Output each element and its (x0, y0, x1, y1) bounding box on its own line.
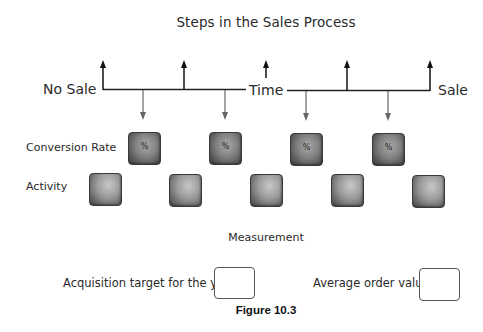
percent-icon: % (129, 142, 160, 151)
conversion-rate-box: % (372, 133, 405, 166)
activity-box (412, 175, 445, 208)
conversion-rate-box: % (209, 132, 242, 165)
no-sale-label: No Sale (43, 81, 96, 97)
conversion-rate-box: % (290, 133, 323, 166)
average-order-value-field (419, 268, 460, 301)
activity-box (89, 173, 122, 206)
percent-icon: % (210, 142, 241, 151)
percent-icon: % (373, 143, 404, 152)
activity-box (250, 174, 283, 207)
acquisition-target-label: Acquisition target for the year (63, 276, 236, 290)
sale-label: Sale (438, 82, 468, 98)
conversion-rate-label: Conversion Rate (26, 141, 116, 154)
time-label: Time (249, 82, 283, 98)
activity-box (169, 174, 202, 207)
average-order-value-label: Average order value (313, 276, 430, 290)
measurement-heading: Measurement (0, 231, 483, 244)
figure-caption: Figure 10.3 (0, 304, 483, 316)
activity-box (331, 174, 364, 207)
activity-label: Activity (26, 180, 67, 193)
conversion-rate-box: % (128, 132, 161, 165)
acquisition-target-field (214, 267, 255, 299)
percent-icon: % (291, 143, 322, 152)
